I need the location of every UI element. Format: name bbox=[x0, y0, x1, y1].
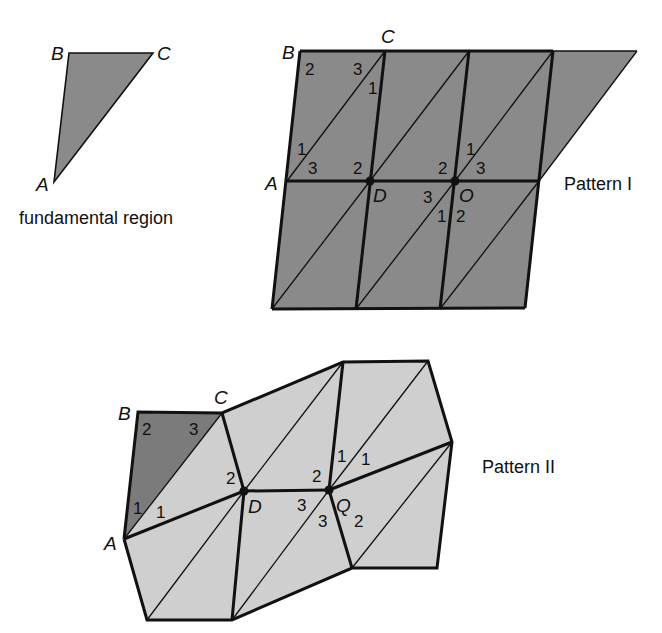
p2-label-q: Q bbox=[336, 495, 351, 516]
p1-angle-d-upper-left: 2 bbox=[353, 159, 362, 178]
fundamental-region: B C A fundamental region bbox=[19, 43, 173, 228]
tiling-diagram: B C A fundamental region bbox=[0, 0, 662, 633]
p1-label-a: A bbox=[264, 173, 278, 194]
p1-label-c: C bbox=[381, 26, 395, 47]
p2-angle-a-right: 1 bbox=[156, 503, 165, 522]
p2-label-d: D bbox=[248, 496, 262, 517]
p2-angle-q-lower-right: 2 bbox=[354, 512, 363, 531]
p2-angle-d-upper-left: 2 bbox=[226, 469, 235, 488]
p2-label-c: C bbox=[214, 387, 228, 408]
pattern-2-caption: Pattern II bbox=[482, 457, 555, 477]
p2-label-a: A bbox=[103, 533, 117, 554]
p1-angle-c-below: 1 bbox=[368, 79, 377, 98]
p1-angle-o-upper: 1 bbox=[466, 140, 475, 159]
p1-angle-o-upper-right: 3 bbox=[476, 159, 485, 178]
fr-label-c: C bbox=[157, 43, 171, 64]
p2-angle-b: 2 bbox=[142, 420, 151, 439]
p1-label-d: D bbox=[373, 185, 387, 206]
p1-angle-c-top: 3 bbox=[353, 60, 362, 79]
pattern-1: B C A D O 2 3 1 1 3 2 2 1 3 3 1 2 Patter… bbox=[264, 26, 637, 309]
fundamental-region-caption: fundamental region bbox=[19, 208, 173, 228]
p1-angle-b: 2 bbox=[305, 60, 314, 79]
p1-angle-a-upper: 1 bbox=[297, 140, 306, 159]
fr-label-a: A bbox=[35, 174, 49, 195]
p2-angle-q-lower: 3 bbox=[318, 512, 327, 531]
pattern-2-point-q bbox=[325, 486, 334, 495]
pattern-2-point-d bbox=[240, 487, 249, 496]
p1-angle-o-lower-1: 1 bbox=[437, 207, 446, 226]
p2-angle-q-left: 3 bbox=[297, 496, 306, 515]
p2-angle-q-upper: 1 bbox=[337, 447, 346, 466]
fr-label-b: B bbox=[51, 43, 64, 64]
p1-angle-o-lower-left: 3 bbox=[423, 188, 432, 207]
p1-label-b: B bbox=[282, 42, 295, 63]
p1-label-o: O bbox=[459, 185, 474, 206]
p2-angle-c: 3 bbox=[189, 420, 198, 439]
p2-label-b: B bbox=[118, 403, 131, 424]
p1-angle-a-right: 3 bbox=[308, 159, 317, 178]
fundamental-triangle bbox=[54, 53, 153, 182]
p2-angle-q-upper-right: 1 bbox=[361, 450, 370, 469]
p1-angle-o-lower-2: 2 bbox=[456, 207, 465, 226]
p2-angle-a-upper: 1 bbox=[133, 499, 142, 518]
pattern-1-caption: Pattern I bbox=[564, 174, 632, 194]
p2-angle-q-upper-left: 2 bbox=[312, 467, 321, 486]
p1-angle-o-upper-left: 2 bbox=[438, 159, 447, 178]
pattern-2: B C A D Q 2 3 1 1 2 2 1 1 3 3 2 Pattern … bbox=[103, 361, 555, 620]
